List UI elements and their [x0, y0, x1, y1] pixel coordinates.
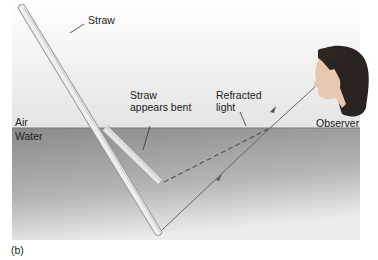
observer-label: Observer [316, 118, 359, 129]
straw-bent-label-line1: Straw [130, 90, 157, 101]
refracted-label-line2: light [216, 102, 235, 113]
refraction-diagram [0, 0, 378, 260]
straw-bent-label-line2: appears bent [130, 102, 191, 113]
straw-label: Straw [88, 15, 115, 26]
water-region [12, 128, 360, 240]
air-label: Air [15, 117, 28, 128]
panel-label: (b) [11, 245, 24, 256]
refracted-label-line1: Refracted [216, 90, 262, 101]
water-label: Water [15, 131, 43, 142]
